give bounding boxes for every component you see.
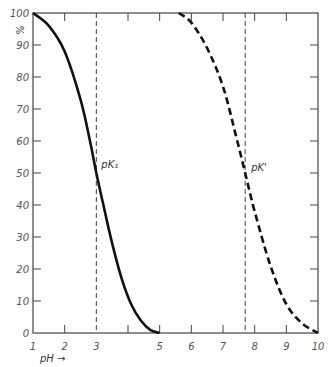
y-tick-label: 10 xyxy=(16,296,29,307)
x-tick-label: 10 xyxy=(312,341,325,352)
axis-ticks: 12356789100102030405060708090100 xyxy=(10,8,324,352)
titration-chart: 12356789100102030405060708090100 %pH →pK… xyxy=(0,0,332,367)
y-tick-label: 60 xyxy=(16,136,29,147)
curves xyxy=(33,13,318,333)
y-tick-label: 100 xyxy=(10,8,29,19)
y-axis-label: % xyxy=(14,25,25,35)
x-tick-label: 1 xyxy=(30,341,36,352)
y-tick-label: 30 xyxy=(16,232,29,243)
x-tick-label: 7 xyxy=(220,341,227,352)
curve-pk-prime xyxy=(179,13,318,333)
y-tick-label: 50 xyxy=(16,168,29,179)
y-tick-label: 90 xyxy=(16,40,29,51)
x-tick-label: 6 xyxy=(188,341,194,352)
x-tick-label: 2 xyxy=(61,341,67,352)
x-tick-label: 5 xyxy=(156,341,162,352)
x-axis-label: pH → xyxy=(39,353,65,364)
y-tick-label: 80 xyxy=(16,72,29,83)
plot-border xyxy=(33,13,318,333)
pk-prime-annotation: pK' xyxy=(250,162,267,173)
pk1-annotation: pK₁ xyxy=(100,159,118,170)
x-tick-label: 9 xyxy=(283,341,289,352)
reference-lines xyxy=(96,13,245,333)
plot-frame xyxy=(33,13,318,333)
y-tick-label: 20 xyxy=(16,264,29,275)
axis-labels: %pH →pK₁pK' xyxy=(14,25,267,364)
y-tick-label: 40 xyxy=(16,200,29,211)
y-tick-label: 70 xyxy=(16,104,29,115)
x-tick-label: 3 xyxy=(93,341,99,352)
x-tick-label: 8 xyxy=(251,341,257,352)
y-tick-label: 0 xyxy=(23,328,29,339)
